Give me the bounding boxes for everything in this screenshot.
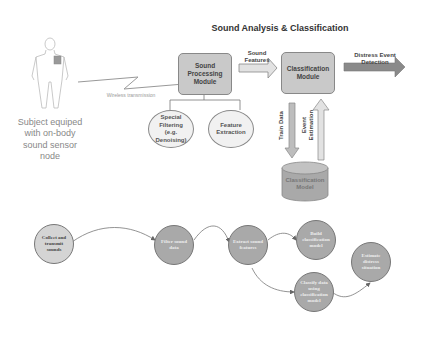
train-data-label: Train Data bbox=[278, 108, 285, 144]
wireless-label: Wireless transmission bbox=[100, 92, 162, 98]
flow-node-collect: Collect and transmit sounds bbox=[34, 224, 74, 264]
classification-module: Classification Module bbox=[281, 52, 335, 94]
sensor-node-icon bbox=[54, 56, 61, 64]
flow-node-build: Build classification model bbox=[296, 220, 336, 260]
event-estimation-label: Event Estimation bbox=[301, 107, 315, 143]
sound-processing-module: Sound Processing Module bbox=[178, 53, 232, 95]
flow-node-estimate: Estimate distress situation bbox=[351, 242, 391, 282]
sound-features-label: Sound Features bbox=[240, 50, 274, 64]
feature-extraction-node: Feature Extraction bbox=[208, 110, 254, 148]
flow-node-extract: Extract sound features bbox=[228, 225, 268, 265]
subject-caption: Subject equiped with on-body sound senso… bbox=[14, 117, 86, 162]
flow-node-filter: Filter sound data bbox=[154, 225, 194, 265]
human-figure-icon bbox=[0, 0, 428, 337]
classification-model-label: Classification Model bbox=[284, 177, 326, 191]
flow-node-classify: Classify data using classification model bbox=[294, 272, 334, 312]
special-filtering-node: Special Filtering (e.g. Denoising) bbox=[148, 110, 194, 148]
panel-title: Sound Analysis & Classification bbox=[200, 23, 360, 33]
distress-event-label: Distress Event Detection bbox=[345, 52, 405, 66]
